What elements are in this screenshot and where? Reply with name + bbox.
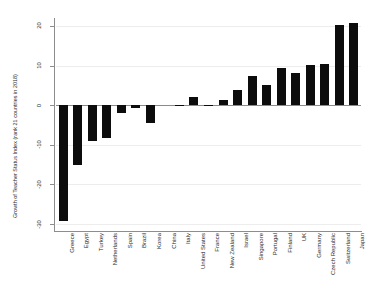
bar-chart: Growth of Teacher Status Index (rank 21 … xyxy=(0,0,385,308)
bar xyxy=(262,85,271,105)
y-tick-mark xyxy=(50,145,55,146)
bar xyxy=(102,105,111,138)
y-tick-mark xyxy=(50,184,55,185)
y-tick-mark xyxy=(50,66,55,67)
bar xyxy=(320,64,329,105)
bar xyxy=(306,65,315,105)
x-axis-label: France xyxy=(211,233,223,307)
x-axis-label: UK xyxy=(298,233,310,307)
y-tick-mark xyxy=(50,26,55,27)
bar xyxy=(73,105,82,165)
y-tick-label: 10 xyxy=(35,55,44,77)
bar xyxy=(219,100,228,105)
bar xyxy=(189,97,198,105)
cropped-title-sliver xyxy=(60,0,360,5)
bar xyxy=(204,105,213,106)
y-tick-label: -30 xyxy=(35,213,44,235)
x-axis-label: Switzerland xyxy=(342,233,354,307)
bar xyxy=(335,25,344,105)
bar xyxy=(233,90,242,105)
x-axis-label: Netherlands xyxy=(109,233,121,307)
x-axis-label: Spain xyxy=(124,233,136,307)
x-axis-label: Germany xyxy=(313,233,325,307)
x-axis-label: Brazil xyxy=(138,233,150,307)
x-axis-labels: GreeceEgyptTurkeyNetherlandsSpainBrazilK… xyxy=(56,233,361,308)
x-axis-label: Greece xyxy=(66,233,78,307)
x-axis-label: Egypt xyxy=(80,233,92,307)
x-axis-label: Turkey xyxy=(95,233,107,307)
x-axis-label: Israel xyxy=(240,233,252,307)
x-axis-label: Portugal xyxy=(269,233,281,307)
x-axis-label: China xyxy=(168,233,180,307)
bar xyxy=(88,105,97,141)
bar xyxy=(117,105,126,113)
bar-series xyxy=(56,18,361,232)
bar xyxy=(59,105,68,221)
bar xyxy=(277,68,286,105)
y-tick-mark xyxy=(50,105,55,106)
x-axis-label: Finland xyxy=(284,233,296,307)
y-tick-label: -10 xyxy=(35,134,44,156)
x-axis-label: New Zealand xyxy=(226,233,238,307)
x-axis-label: Italy xyxy=(182,233,194,307)
bar xyxy=(248,76,257,105)
y-tick-mark xyxy=(50,224,55,225)
y-tick-label: 0 xyxy=(35,94,44,116)
bar xyxy=(291,73,300,105)
bar xyxy=(131,105,140,108)
y-axis-spine xyxy=(54,18,55,232)
bar xyxy=(175,105,184,106)
x-axis-label: United States xyxy=(197,233,209,307)
y-axis-title: Growth of Teacher Status Index (rank 21 … xyxy=(10,18,21,218)
x-axis-label: Japan xyxy=(356,233,368,307)
y-tick-label: -20 xyxy=(35,173,44,195)
plot-area xyxy=(56,18,361,232)
bar xyxy=(146,105,155,123)
x-axis-label: Korea xyxy=(153,233,165,307)
x-axis-label: Czech Republic xyxy=(327,233,339,307)
bar xyxy=(349,23,358,105)
x-axis-label: Singapore xyxy=(255,233,267,307)
y-tick-label: 20 xyxy=(35,15,44,37)
